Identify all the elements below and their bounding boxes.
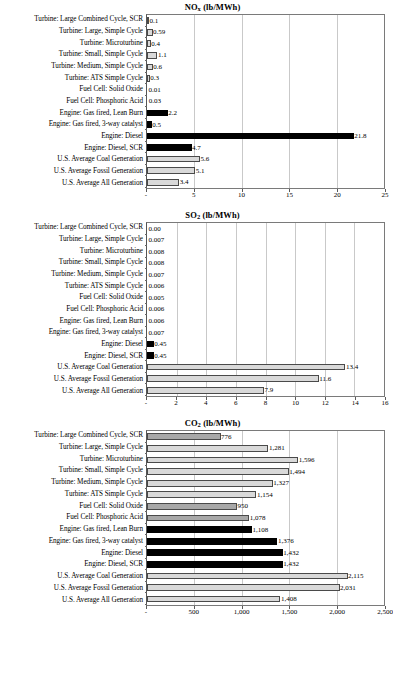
category-label: Turbine: Microturbine [0,453,146,465]
bar: 4.7 [147,144,192,151]
axis-tick-label: - [145,192,147,199]
bar-value-label: 0.4 [151,40,160,47]
bar: 1,596 [147,457,298,464]
plot-area-so2: 0.000.0070.0080.0080.0070.0060.0050.0060… [146,222,385,397]
category-label: Engine: Gas fired, Lean Burn [0,524,146,536]
bar-value-label: 0.007 [149,237,165,244]
bar: 0.45 [147,341,154,348]
bar: 1,108 [147,526,252,533]
bar-value-label: 0.005 [149,294,165,301]
category-label: Turbine: ATS Simple Cycle [0,280,146,292]
chart-title-text: SO [185,210,197,220]
bar-row: 2.2 [147,107,384,119]
bar-value-label: 0.008 [149,248,165,255]
bar-value-label: 1,327 [273,480,289,487]
bar-row: 0.008 [147,246,384,258]
category-label: U.S. Average Fossil Generation [0,374,146,386]
chart-title-co2: CO2 (lb/MWh) [0,416,385,430]
bar-row: 0.008 [147,258,384,270]
category-label: Turbine: Large Combined Cycle, SCR [0,14,146,26]
chart-title-text: CO [185,418,198,428]
bar-row: 0.45 [147,338,384,350]
bar-value-label: 21.8 [354,133,366,140]
chart-body-nox: Turbine: Large Combined Cycle, SCRTurbin… [0,14,385,189]
bar-row: 13.4 [147,361,384,373]
bar-value-label: 1,408 [281,596,297,603]
bar-value-label: 0.45 [154,341,166,348]
axis-tick-label: 6 [234,400,238,407]
bar-row: 1,494 [147,466,384,478]
bar: 1,494 [147,468,289,475]
bar: 1,432 [147,549,283,556]
axis-tick-label: 10 [238,192,245,199]
category-label: Engine: Gas fired, Lean Burn [0,107,146,119]
bar-value-label: 1,281 [269,445,285,452]
bar: 0.45 [147,352,154,359]
category-label: Fuel Cell: Solid Oxide [0,500,146,512]
category-label: Engine: Diesel, SCR [0,350,146,362]
axis-tick-label: 16 [382,400,389,407]
category-label: Turbine: Medium, Simple Cycle [0,477,146,489]
x-axis-so2: -246810121416 [0,397,385,410]
axis-spacer [0,397,146,410]
bar-rows-so2: 0.000.0070.0080.0080.0070.0060.0050.0060… [147,223,384,396]
bar-row: 1,108 [147,524,384,536]
category-label: Turbine: Medium, Simple Cycle [0,269,146,281]
axis-tick-label: 1,000 [234,609,250,616]
axis-tick-label: 2 [174,400,178,407]
bar-row: 0.6 [147,61,384,73]
category-label: U.S. Average Coal Generation [0,154,146,166]
axis-spacer [0,189,146,202]
bar-value-label: 2.2 [168,110,177,117]
bar-row: 0.00 [147,223,384,235]
category-label: Turbine: Small, Simple Cycle [0,49,146,61]
bar-value-label: 1,432 [283,549,299,556]
bar: 2,115 [147,573,348,580]
bar-row: 0.006 [147,304,384,316]
axis-tick-label: 20 [334,192,341,199]
category-label: Engine: Diesel, SCR [0,142,146,154]
bar-value-label: 11.6 [319,375,331,382]
chart-title-nox: NOx (lb/MWh) [0,0,385,14]
bar-value-label: 5.6 [201,156,210,163]
x-axis-scale-nox: -510152025 [146,189,385,202]
bar-value-label: 0.5 [152,121,161,128]
bar-value-label: 1,154 [257,491,273,498]
axis-tick-label: 2,000 [329,609,345,616]
x-axis-scale-so2: -246810121416 [146,397,385,410]
bar-row: 1,327 [147,477,384,489]
category-tick [145,187,147,188]
category-label: Turbine: Small, Simple Cycle [0,465,146,477]
bar-row: 0.007 [147,269,384,281]
axis-tick-label: 2,500 [377,609,393,616]
bar-row: 2,115 [147,570,384,582]
bar-row: 0.5 [147,119,384,131]
bar-row: 0.4 [147,38,384,50]
chart-body-so2: Turbine: Large Combined Cycle, SCRTurbin… [0,222,385,397]
category-label: Fuel Cell: Solid Oxide [0,292,146,304]
bar: 11.6 [147,375,319,382]
bar-value-label: 1,078 [250,514,266,521]
bar-row: 950 [147,501,384,513]
axis-tick-label: - [145,609,147,616]
bar: 0.59 [147,29,153,36]
bar-value-label: 0.59 [153,29,165,36]
bar: 1,078 [147,515,249,522]
chart-title-unit: (lb/MWh) [201,2,240,12]
bar-value-label: 5.1 [196,167,205,174]
bar-value-label: 1,432 [283,561,299,568]
axis-tick-label: 14 [352,400,359,407]
bar: 950 [147,503,237,510]
category-label: Engine: Gas fired, Lean Burn [0,315,146,327]
category-label: Fuel Cell: Phosphoric Acid [0,96,146,108]
category-label: Turbine: Microturbine [0,37,146,49]
bar-row: 0.3 [147,73,384,85]
bar-row: 1,376 [147,535,384,547]
x-axis-scale-co2: -5001,0001,5002,0002,500 [146,606,385,619]
bar-value-label: 0.01 [149,86,161,93]
chart-title-unit: (lb/MWh) [200,210,239,220]
bar-value-label: 0.1 [150,17,159,24]
category-label: Engine: Diesel [0,339,146,351]
category-label: U.S. Average Fossil Generation [0,166,146,178]
bar-value-label: 0.03 [149,98,161,105]
